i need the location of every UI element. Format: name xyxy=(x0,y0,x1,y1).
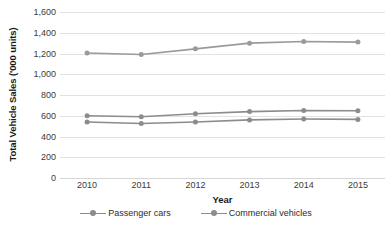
x-axis-tick-labels: 201020112012201320142015 xyxy=(60,180,385,194)
data-point xyxy=(139,121,144,126)
data-point xyxy=(139,52,144,57)
data-point xyxy=(301,117,306,122)
y-axis-title-label: Total Vehicle Sales ('000 units) xyxy=(7,27,18,161)
legend-dot-icon xyxy=(90,210,96,216)
y-axis-tick-label: 1,400 xyxy=(33,28,56,38)
series-line xyxy=(87,42,358,55)
series-line xyxy=(87,119,358,123)
data-point xyxy=(193,111,198,116)
data-point xyxy=(85,119,90,124)
legend-label: Commercial vehicles xyxy=(229,208,312,218)
y-axis-tick-label: 1,200 xyxy=(33,49,56,59)
legend-label: Passenger cars xyxy=(108,208,171,218)
data-point xyxy=(355,40,360,45)
legend-marker-icon xyxy=(201,209,227,218)
x-axis-tick-label: 2013 xyxy=(240,180,260,190)
legend-dot-icon xyxy=(211,210,217,216)
data-point xyxy=(301,39,306,44)
data-point xyxy=(301,108,306,113)
x-axis-tick-label: 2010 xyxy=(77,180,97,190)
data-point xyxy=(193,119,198,124)
chart-container: Total Vehicle Sales ('000 units) 0200400… xyxy=(0,0,392,237)
data-point xyxy=(247,41,252,46)
series-passenger-cars xyxy=(85,117,361,126)
gridline xyxy=(60,178,385,179)
y-axis-tick-label: 800 xyxy=(41,90,56,100)
y-axis-tick-label: 600 xyxy=(41,111,56,121)
series-line xyxy=(87,111,358,117)
y-axis-title: Total Vehicle Sales ('000 units) xyxy=(0,0,24,188)
y-axis-tick-label: 0 xyxy=(51,173,56,183)
data-point xyxy=(355,108,360,113)
y-axis-tick-label: 400 xyxy=(41,132,56,142)
series-total-vehicles xyxy=(85,39,361,57)
x-axis-title: Year xyxy=(60,194,385,205)
data-point xyxy=(247,117,252,122)
plot-area xyxy=(60,12,385,178)
legend-item-passenger-cars[interactable]: Passenger cars xyxy=(80,208,171,218)
y-axis-tick-label: 200 xyxy=(41,152,56,162)
y-axis-tick-label: 1,000 xyxy=(33,69,56,79)
x-axis-tick-label: 2015 xyxy=(348,180,368,190)
data-point xyxy=(139,114,144,119)
x-axis-tick-label: 2012 xyxy=(185,180,205,190)
y-axis-tick-label: 1,600 xyxy=(33,7,56,17)
x-axis-tick-label: 2011 xyxy=(132,180,151,190)
data-point xyxy=(193,46,198,51)
legend-marker-icon xyxy=(80,209,106,218)
series-lines xyxy=(60,12,385,178)
series-commercial-vehicles xyxy=(85,108,361,119)
y-axis-tick-labels: 02004006008001,0001,2001,4001,600 xyxy=(24,12,58,178)
data-point xyxy=(85,113,90,118)
legend-item-commercial-vehicles[interactable]: Commercial vehicles xyxy=(201,208,312,218)
data-point xyxy=(355,117,360,122)
data-point xyxy=(85,50,90,55)
data-point xyxy=(247,109,252,114)
x-axis-tick-label: 2014 xyxy=(294,180,314,190)
chart-legend: Passenger carsCommercial vehicles xyxy=(0,208,392,218)
